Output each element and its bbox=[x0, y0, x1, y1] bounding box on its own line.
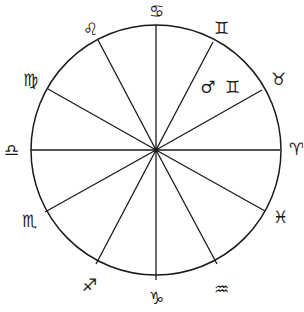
taurus-icon: ♉︎ bbox=[271, 71, 286, 88]
sagittarius-icon: ♐︎ bbox=[82, 277, 97, 294]
leo-icon: ♌︎ bbox=[83, 21, 98, 38]
house-spokes bbox=[31, 25, 280, 280]
aries-icon: ♈︎ bbox=[289, 141, 304, 158]
capricorn-icon: ♑︎ bbox=[149, 290, 164, 307]
mars-in-gemini-label: ♂︎ ♊︎ bbox=[200, 79, 242, 96]
virgo-icon: ♍︎ bbox=[23, 72, 38, 89]
center-hub bbox=[154, 148, 158, 152]
mars-icon: ♂︎ bbox=[200, 77, 217, 97]
gemini-icon: ♊︎ bbox=[214, 20, 229, 37]
gemini-icon: ♊︎ bbox=[225, 77, 242, 97]
zodiac-wheel bbox=[0, 0, 303, 312]
scorpio-icon: ♏︎ bbox=[22, 213, 37, 230]
libra-icon: ♎︎ bbox=[4, 142, 19, 159]
aquarius-icon: ♒︎ bbox=[214, 281, 229, 298]
pisces-icon: ♓︎ bbox=[273, 209, 288, 226]
cancer-icon: ♋︎ bbox=[149, 3, 164, 20]
